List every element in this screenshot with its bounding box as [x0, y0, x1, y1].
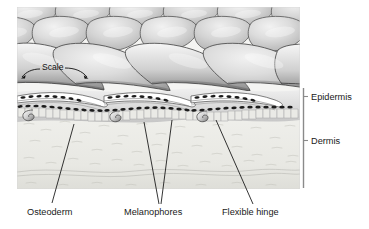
scale-surface-group: [0, 0, 344, 92]
epidermis-label: Epidermis: [311, 92, 352, 102]
skin-cross-section-figure: Scale Osteoderm Melanophores Flexible hi…: [0, 0, 369, 229]
scale-label: Scale: [42, 62, 64, 72]
dermis-label: Dermis: [311, 136, 340, 146]
bottom-labels: Osteoderm Melanophores Flexible hinge: [27, 207, 279, 217]
flexible-hinge-label: Flexible hinge: [222, 207, 279, 217]
melanophores-label: Melanophores: [124, 207, 183, 217]
illustration-panel: [0, 0, 344, 189]
osteoderm-label: Osteoderm: [27, 207, 73, 217]
